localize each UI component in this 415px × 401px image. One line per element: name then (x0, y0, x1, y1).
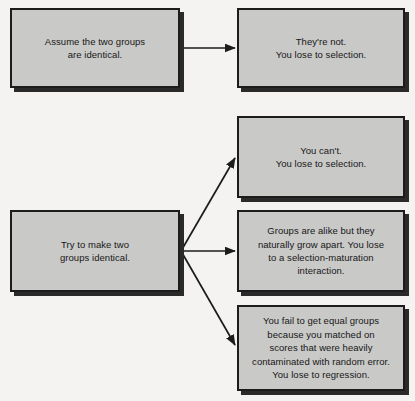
node-theyre-not-label: They're not. You lose to selection. (276, 35, 367, 62)
node-regression-label: You fail to get equal groups because you… (252, 314, 390, 381)
node-assume[interactable]: Assume the two groups are identical. (10, 8, 180, 88)
edge-try-to-you-cant (181, 158, 235, 251)
node-try-make-identical-label: Try to make two groups identical. (60, 238, 130, 265)
edges-group (181, 48, 235, 345)
edge-try-to-regression (181, 251, 235, 345)
node-selection-maturation-label: Groups are alike but they naturally grow… (258, 224, 384, 278)
node-you-cant[interactable]: You can't. You lose to selection. (237, 116, 405, 198)
node-try-make-identical[interactable]: Try to make two groups identical. (10, 210, 180, 292)
node-regression[interactable]: You fail to get equal groups because you… (237, 305, 405, 391)
node-selection-maturation[interactable]: Groups are alike but they naturally grow… (237, 210, 405, 292)
flowchart-canvas: Assume the two groups are identical. The… (0, 0, 415, 401)
node-you-cant-label: You can't. You lose to selection. (276, 144, 367, 171)
node-assume-label: Assume the two groups are identical. (45, 35, 145, 62)
node-theyre-not[interactable]: They're not. You lose to selection. (237, 8, 405, 88)
